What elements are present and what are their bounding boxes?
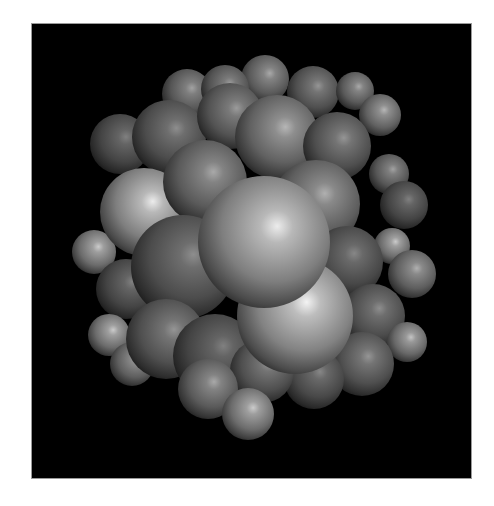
sphere — [380, 181, 428, 229]
sphere — [388, 250, 436, 298]
sphere — [198, 176, 330, 308]
sphere — [222, 388, 274, 440]
sphere-cluster-render — [32, 24, 472, 479]
render-frame: Grayscale ray-traced cluster of shaded s… — [31, 23, 472, 479]
sphere — [387, 322, 427, 362]
